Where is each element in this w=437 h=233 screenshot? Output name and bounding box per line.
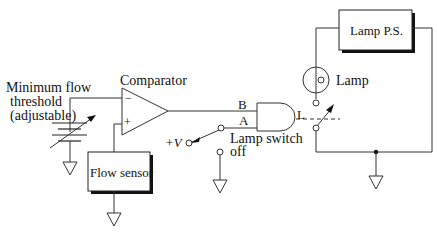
lamp-ps-box: Lamp P.S. (339, 10, 415, 53)
threshold-label-3: (adjustable) (10, 108, 76, 124)
comparator-plus: + (124, 115, 131, 129)
comparator-label: Comparator (120, 73, 187, 88)
plus-v-label: +V (165, 135, 184, 150)
relay-switch (313, 104, 334, 131)
input-a-label: A (239, 113, 249, 128)
flow-sensor-label: Flow sensor (90, 165, 154, 180)
output-l-label: L (297, 107, 305, 122)
circuit-diagram: Minimum flow threshold (adjustable) Comp… (0, 0, 437, 233)
lamp-label: Lamp (336, 73, 369, 88)
threshold-label-1: Minimum flow (6, 80, 92, 95)
ground-icon (369, 176, 383, 189)
ground-icon (213, 180, 227, 193)
comparator-minus: − (125, 91, 132, 105)
lamp-switch (186, 130, 219, 146)
ground-icon (63, 162, 77, 175)
input-b-label: B (238, 97, 247, 112)
and-gate-icon (257, 103, 295, 131)
threshold-label-2: threshold (10, 94, 62, 109)
lamp-ps-label: Lamp P.S. (350, 23, 403, 38)
wire-ps-to-lamp (316, 28, 339, 99)
lamp-switch-label-2: off (230, 144, 246, 159)
ground-icon (107, 213, 121, 226)
flow-sensor-box: Flow sensor (88, 152, 154, 194)
wire-sensor-to-plus (114, 124, 122, 152)
